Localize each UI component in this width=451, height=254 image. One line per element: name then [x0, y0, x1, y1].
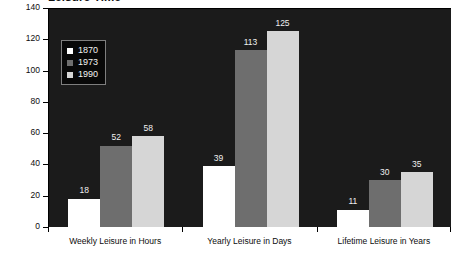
bar-rect	[68, 199, 100, 227]
x-axis-category-label: Yearly Leisure in Days	[207, 236, 291, 246]
bar-rect	[369, 180, 401, 227]
y-axis-tick-label: 120	[26, 33, 40, 43]
bar-value-label: 58	[143, 124, 152, 133]
legend-swatch-icon	[67, 48, 73, 54]
bar-value-label: 30	[380, 168, 389, 177]
y-axis-tick: 100	[0, 71, 48, 72]
bar-value-label: 18	[79, 186, 88, 195]
bar-value-label: 39	[214, 154, 223, 163]
y-axis-tick-label: 40	[31, 158, 40, 168]
x-axis-tick-mark	[317, 227, 318, 232]
y-axis-tick-label: 20	[31, 190, 40, 200]
bar-rect	[337, 210, 369, 227]
bar[interactable]: 125	[267, 8, 299, 227]
bar-rect	[401, 172, 433, 227]
bar-rect	[203, 166, 235, 227]
y-axis-tick: 80	[0, 102, 48, 103]
legend-label: 1870	[78, 46, 98, 55]
x-axis-category-label: Weekly Leisure in Hours	[69, 236, 161, 246]
x-axis-tick-mark	[182, 227, 183, 232]
bar-rect	[132, 136, 164, 227]
bar[interactable]: 35	[401, 8, 433, 227]
legend-item-1870[interactable]: 1870	[67, 45, 98, 56]
bar-rect	[235, 50, 267, 227]
plot-inner: 18525839113125113035 187019731990	[49, 9, 451, 227]
bar-rect	[100, 146, 132, 227]
y-axis-tick: 60	[0, 133, 48, 134]
bar-group: 39113125	[203, 9, 299, 227]
bar-value-label: 125	[275, 19, 289, 28]
legend-swatch-icon	[67, 72, 73, 78]
x-axis-category-label: Lifetime Leisure in Years	[338, 236, 431, 246]
bar[interactable]: 39	[203, 8, 235, 227]
bar-group: 113035	[337, 9, 433, 227]
y-axis-tick-label: 60	[31, 127, 40, 137]
y-axis-tick-label: 140	[26, 2, 40, 12]
legend-item-1973[interactable]: 1973	[67, 57, 98, 68]
y-axis-tick-label: 100	[26, 65, 40, 75]
bar[interactable]: 58	[132, 8, 164, 227]
y-axis-tick-label: 80	[31, 96, 40, 106]
bar-value-label: 113	[244, 38, 258, 47]
bar-value-label: 11	[348, 197, 357, 206]
y-axis-tick: 40	[0, 164, 48, 165]
legend-item-1990[interactable]: 1990	[67, 69, 98, 80]
bar-value-label: 52	[111, 133, 120, 142]
chart-title: Leisure Time	[48, 0, 121, 3]
legend-label: 1973	[78, 58, 98, 67]
y-axis-tick-label: 0	[35, 221, 40, 231]
y-axis-tick: 20	[0, 196, 48, 197]
plot-area: 18525839113125113035 187019731990	[48, 8, 451, 227]
bar-rect	[267, 31, 299, 227]
legend-swatch-icon	[67, 60, 73, 66]
y-axis-tick: 140	[0, 8, 48, 9]
bar[interactable]: 30	[369, 8, 401, 227]
y-axis-tick: 0	[0, 227, 48, 228]
x-axis-tick-mark	[48, 227, 49, 232]
bar[interactable]: 113	[235, 8, 267, 227]
chart-legend: 187019731990	[61, 40, 106, 85]
bar-value-label: 35	[412, 160, 421, 169]
bar[interactable]: 11	[337, 8, 369, 227]
y-axis-tick: 120	[0, 39, 48, 40]
legend-label: 1990	[78, 70, 98, 79]
